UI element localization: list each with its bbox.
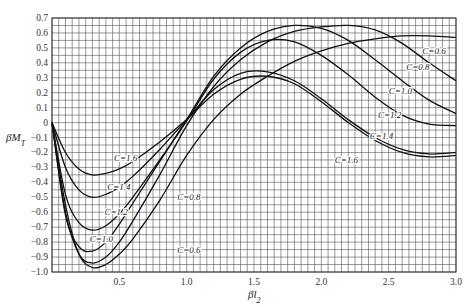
curve-label: C=1.6 (335, 155, 359, 165)
chart: C=0.6C=0.8C=1.0C=1.2C=1.4C=1.6C=1.6C=1.4… (0, 0, 469, 307)
y-tick-label: −0.2 (31, 147, 48, 157)
curve-label: C=1.4 (370, 131, 394, 141)
y-tick-label: 0.7 (36, 13, 48, 23)
y-tick-label: −0.7 (31, 222, 48, 232)
x-tick-label: 2.5 (383, 277, 395, 287)
y-tick-label: 0.1 (36, 103, 48, 113)
y-tick-label: −0.4 (31, 177, 48, 187)
x-tick-label: 0.5 (113, 277, 125, 287)
y-tick-label: 0.3 (36, 73, 48, 83)
x-tick-label: 1.0 (181, 277, 193, 287)
x-tick-label: 3.0 (450, 277, 462, 287)
x-tick-label: 1.5 (248, 277, 260, 287)
curve-label: C=1.4 (107, 182, 131, 192)
y-tick-label: 0.2 (36, 88, 48, 98)
y-tick-label: 0.5 (36, 43, 48, 53)
curve-label: C=1.0 (90, 234, 114, 244)
y-tick-label: 0.4 (36, 58, 48, 68)
y-tick-label: 0 (43, 118, 48, 128)
curve-label: C=0.8 (177, 192, 201, 202)
y-tick-label: −0.5 (31, 192, 48, 202)
x-axis-ticks: 0.51.01.52.02.53.0 (113, 277, 462, 287)
y-tick-label: −0.6 (31, 207, 48, 217)
y-tick-label: −0.9 (31, 252, 48, 262)
y-tick-label: −0.3 (31, 162, 48, 172)
curve-labels: C=0.6C=0.8C=1.0C=1.2C=1.4C=1.6C=1.6C=1.4… (90, 46, 446, 255)
x-tick-label: 2.0 (315, 277, 327, 287)
curve-label: C=0.6 (422, 46, 446, 56)
y-tick-label: 0.6 (36, 28, 48, 38)
curve-label: C=1.2 (105, 207, 129, 217)
y-tick-label: −0.8 (31, 237, 48, 247)
y-axis-label: βMT (5, 131, 26, 148)
y-tick-label: −1.0 (31, 267, 48, 277)
curve-label: C=0.8 (406, 62, 430, 72)
curve-label: C=1.0 (389, 86, 413, 96)
curve-label: C=0.6 (177, 245, 201, 255)
y-tick-label: −0.1 (31, 133, 48, 143)
curve-label: C=1.6 (114, 153, 138, 163)
curve-label: C=1.2 (378, 110, 402, 120)
x-axis-label: βl2 (247, 288, 261, 305)
y-axis-ticks: 0.70.60.50.40.30.20.10−0.1−0.2−0.3−0.4−0… (31, 13, 48, 277)
